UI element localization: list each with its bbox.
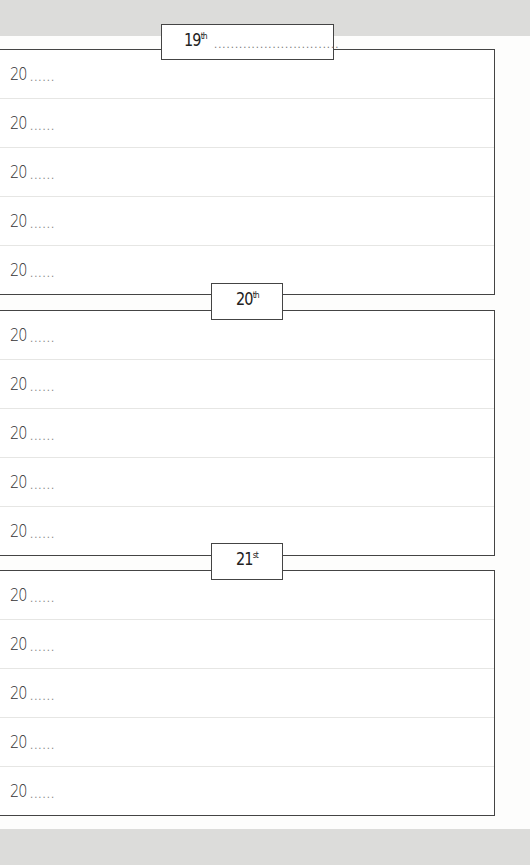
year-prefix: 20 [10, 113, 27, 133]
bottom-gray-band [0, 829, 530, 865]
year-fill-dots: ...... [30, 480, 55, 491]
year-fill-dots: ...... [30, 642, 55, 653]
year-fill-dots: ...... [30, 789, 55, 800]
year-entry-row[interactable]: 20 ...... [0, 99, 494, 148]
year-fill-dots: ...... [30, 529, 55, 540]
date-tab-20: 20th [211, 283, 283, 320]
year-prefix: 20 [10, 325, 27, 345]
year-prefix: 20 [10, 374, 27, 394]
month-fill-line[interactable]: .............................. [214, 39, 339, 50]
year-entry-row[interactable]: 20 ...... [0, 148, 494, 197]
year-entry-row[interactable]: 20 ...... [0, 409, 494, 458]
year-prefix: 20 [10, 585, 27, 605]
year-entry-row[interactable]: 20 ...... [0, 197, 494, 246]
year-entry-row[interactable]: 20 ...... [0, 767, 494, 816]
year-prefix: 20 [10, 64, 27, 84]
day-section-21: 20 ...... 20 ...... 20 ...... 20 ...... … [0, 570, 495, 816]
date-label: 20th [236, 289, 259, 309]
year-prefix: 20 [10, 521, 27, 541]
year-prefix: 20 [10, 260, 27, 280]
day-section-20: 20 ...... 20 ...... 20 ...... 20 ...... … [0, 310, 495, 556]
year-fill-dots: ...... [30, 691, 55, 702]
year-prefix: 20 [10, 472, 27, 492]
year-entry-row[interactable]: 20 ...... [0, 669, 494, 718]
year-prefix: 20 [10, 162, 27, 182]
year-fill-dots: ...... [30, 740, 55, 751]
year-entry-row[interactable]: 20 ...... [0, 458, 494, 507]
day-section-19: 20 ...... 20 ...... 20 ...... 20 ...... … [0, 49, 495, 295]
date-tab-19: 19th .............................. [161, 24, 334, 60]
year-fill-dots: ...... [30, 268, 55, 279]
year-prefix: 20 [10, 634, 27, 654]
year-prefix: 20 [10, 683, 27, 703]
date-label: 19th [184, 30, 207, 50]
date-tab-21: 21st [211, 543, 283, 580]
year-fill-dots: ...... [30, 333, 55, 344]
year-entry-row[interactable]: 20 ...... [0, 620, 494, 669]
year-fill-dots: ...... [30, 593, 55, 604]
year-fill-dots: ...... [30, 219, 55, 230]
year-prefix: 20 [10, 732, 27, 752]
year-prefix: 20 [10, 781, 27, 801]
year-fill-dots: ...... [30, 121, 55, 132]
date-label: 21st [236, 549, 258, 569]
year-fill-dots: ...... [30, 382, 55, 393]
year-prefix: 20 [10, 423, 27, 443]
year-prefix: 20 [10, 211, 27, 231]
year-fill-dots: ...... [30, 170, 55, 181]
year-fill-dots: ...... [30, 431, 55, 442]
year-entry-row[interactable]: 20 ...... [0, 718, 494, 767]
year-fill-dots: ...... [30, 72, 55, 83]
year-entry-row[interactable]: 20 ...... [0, 360, 494, 409]
